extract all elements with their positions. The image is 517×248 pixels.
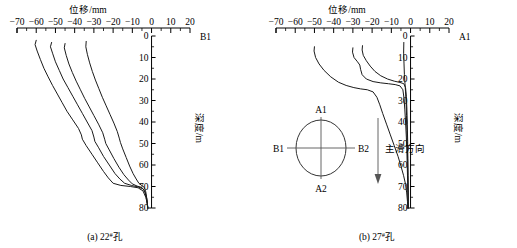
curves-panel-a: [35, 40, 148, 208]
panel-caption-a: (a) 22#孔: [87, 231, 123, 243]
sliding-direction-arrow-group: 主滑方向: [375, 118, 425, 184]
y-tick-label: 0: [403, 31, 408, 41]
y-tick-label: 40: [139, 117, 149, 127]
inset-label-a2: A2: [315, 184, 327, 194]
x-tick-label: 10: [166, 17, 176, 27]
y-tick-label: 20: [139, 74, 149, 84]
x-tick-label: −70: [10, 17, 25, 27]
panel-caption-b: (b) 27#孔: [359, 231, 395, 243]
inset-label-b1: B1: [273, 144, 284, 154]
y-axis-title: 深度/m: [453, 113, 464, 144]
axis-corner-label-a1: A1: [459, 32, 471, 42]
inset-label-b2: B2: [358, 144, 369, 154]
x-tick-label: −60: [288, 17, 303, 27]
x-tick-label: 10: [425, 17, 435, 27]
x-tick-label: −30: [86, 17, 101, 27]
axes-panel-b: −70−60−50−40−30−20−100102001020304050607…: [269, 17, 454, 213]
y-tick-label: 20: [398, 74, 408, 84]
x-tick-label: −50: [307, 17, 322, 27]
y-tick-label: 60: [139, 160, 149, 170]
x-tick-label: −60: [29, 17, 44, 27]
axes-panel-a: −70−60−50−40−30−20−100102001020304050607…: [10, 17, 195, 213]
chart-svg-panel-a: −70−60−50−40−30−20−100102001020304050607…: [0, 0, 258, 248]
axis-corner-label-b1: B1: [200, 32, 211, 42]
x-tick-label: −30: [345, 17, 360, 27]
y-tick-label: 50: [139, 139, 149, 149]
caption-suffix: 孔: [113, 232, 123, 242]
x-tick-label: −40: [326, 17, 341, 27]
figure-root: −70−60−50−40−30−20−100102001020304050607…: [0, 0, 517, 248]
x-tick-label: −40: [67, 17, 82, 27]
y-tick-label: 80: [398, 203, 408, 213]
y-tick-label: 10: [398, 53, 408, 63]
panel-27-hole: −70−60−50−40−30−20−100102001020304050607…: [259, 0, 517, 248]
x-tick-label: −20: [106, 17, 121, 27]
y-axis-title: 深度/m: [194, 113, 205, 144]
caption-prefix: (a) 22: [87, 232, 110, 243]
x-axis-title: 位移/mm: [69, 4, 107, 15]
x-axis-title: 位移/mm: [328, 4, 366, 15]
inset-label-a1: A1: [315, 105, 327, 115]
x-tick-label: −70: [269, 17, 284, 27]
x-tick-label: −20: [365, 17, 380, 27]
x-tick-label: 20: [444, 17, 454, 27]
x-tick-label: −10: [125, 17, 140, 27]
y-tick-label: 0: [144, 31, 149, 41]
x-tick-label: −50: [48, 17, 63, 27]
y-tick-label: 10: [139, 53, 149, 63]
y-tick-label: 30: [139, 96, 149, 106]
sliding-direction-label: 主滑方向: [385, 143, 425, 154]
arrow-head-icon: [375, 174, 382, 184]
panel-22-hole: −70−60−50−40−30−20−100102001020304050607…: [0, 0, 258, 248]
x-tick-label: 0: [408, 17, 413, 27]
x-tick-label: −10: [384, 17, 399, 27]
caption-suffix: 孔: [385, 232, 395, 242]
x-tick-label: 20: [185, 17, 195, 27]
orientation-inset: A1 A2 B1 B2: [273, 105, 369, 194]
x-tick-label: 0: [149, 17, 154, 27]
chart-svg-panel-b: −70−60−50−40−30−20−100102001020304050607…: [259, 0, 517, 248]
curves-panel-b: [314, 42, 408, 208]
caption-prefix: (b) 27: [359, 232, 382, 243]
